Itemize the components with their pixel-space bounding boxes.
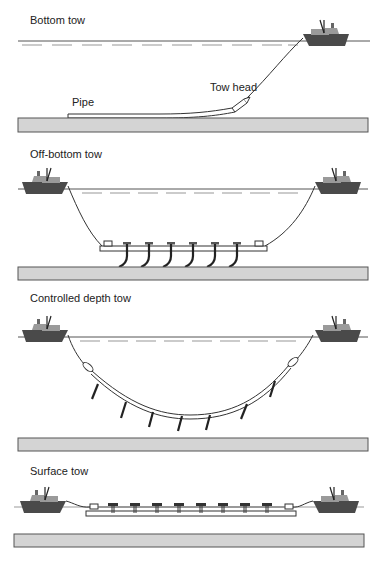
- tow-line-right: [265, 186, 315, 246]
- vessel-icon-left: [22, 168, 68, 194]
- vessel-icon-right: [313, 487, 359, 513]
- tow-line-right: [297, 335, 313, 359]
- bottom-tow-illustration: [0, 0, 387, 140]
- pipe: [100, 246, 267, 251]
- panel-surface-tow: Surface tow: [0, 455, 387, 562]
- tow-head-icon: [232, 99, 247, 112]
- tow-line-right: [292, 501, 313, 507]
- vessel-icon-right: [315, 168, 361, 194]
- vessel-icon-left: [22, 316, 68, 342]
- seabed: [18, 267, 368, 280]
- panel-bottom-tow: Bottom tow Pipe Tow head: [0, 0, 387, 140]
- pipe: [68, 108, 232, 114]
- tow-line-left: [68, 186, 102, 246]
- vessel-icon-left: [20, 487, 66, 513]
- vessel-icon: [303, 20, 349, 46]
- controlled-depth-tow-illustration: [0, 285, 387, 455]
- vessel-icon-right: [315, 316, 361, 342]
- tow-line-left: [68, 335, 84, 364]
- pipe: [92, 365, 289, 415]
- panel-off-bottom-tow: Off-bottom tow: [0, 140, 387, 285]
- seabed: [18, 118, 368, 132]
- seabed: [14, 534, 364, 547]
- surface-tow-illustration: [0, 455, 387, 562]
- off-bottom-tow-illustration: [0, 140, 387, 285]
- panel-controlled-depth-tow: Controlled depth tow: [0, 285, 387, 455]
- seabed: [18, 438, 368, 451]
- tow-head-label: Tow head: [210, 81, 257, 93]
- tow-line-left: [66, 501, 90, 507]
- pipe-label: Pipe: [72, 96, 94, 108]
- pipe: [86, 511, 296, 516]
